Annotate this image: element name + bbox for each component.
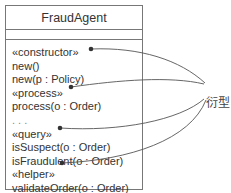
dot-process-icon: [69, 85, 74, 90]
dot-constructor-icon: [89, 47, 94, 52]
connector-process: [71, 80, 204, 87]
connector-query: [60, 99, 204, 129]
dot-query-icon: [58, 126, 63, 131]
connector-constructor: [91, 49, 205, 83]
connector-helper: [62, 100, 206, 163]
stereotype-label: 衍型: [206, 93, 230, 110]
dot-helper-icon: [60, 161, 65, 166]
annotation-connectors: [0, 0, 231, 193]
